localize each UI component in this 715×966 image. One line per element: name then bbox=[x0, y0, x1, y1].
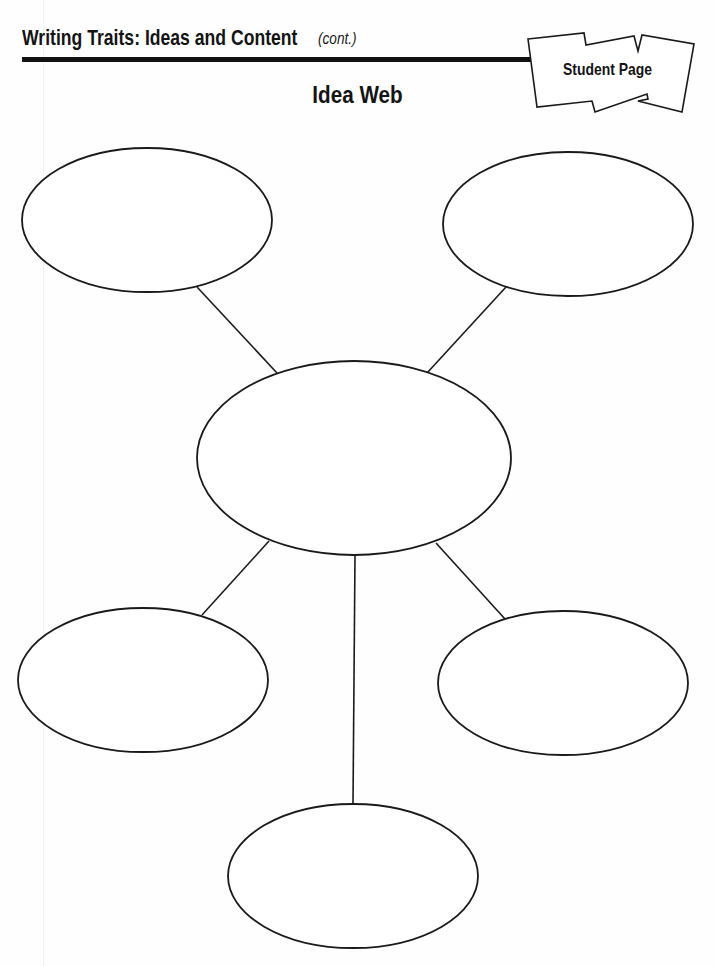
idea-bubble-bottom-left[interactable] bbox=[18, 608, 268, 752]
connector-top-left bbox=[197, 287, 277, 373]
idea-bubble-bottom-right[interactable] bbox=[438, 611, 688, 755]
idea-bubble-bottom[interactable] bbox=[228, 804, 478, 948]
idea-bubble-top-left[interactable] bbox=[22, 148, 272, 292]
main-idea-bubble[interactable] bbox=[197, 361, 511, 555]
connector-bottom-right bbox=[436, 543, 505, 619]
idea-bubble-top-right[interactable] bbox=[443, 152, 693, 296]
connector-bottom bbox=[353, 555, 355, 804]
connector-top-right bbox=[427, 287, 506, 373]
idea-web-diagram bbox=[0, 0, 715, 966]
worksheet-page: Writing Traits: Ideas and Content (cont.… bbox=[0, 0, 715, 966]
connector-bottom-left bbox=[202, 541, 269, 615]
